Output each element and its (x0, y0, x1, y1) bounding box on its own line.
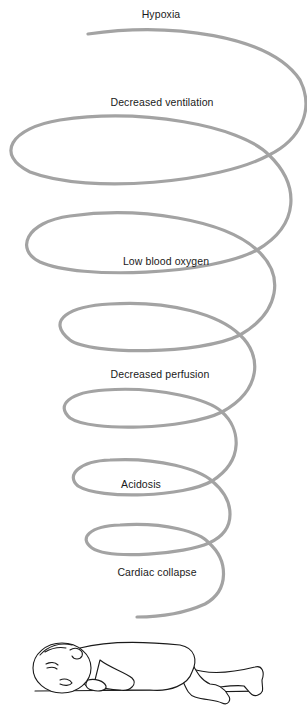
hypoxia-spiral-diagram: Hypoxia Decreased ventilation Low blood … (0, 0, 307, 710)
infant-illustration (0, 0, 307, 710)
infant-head (33, 643, 91, 693)
